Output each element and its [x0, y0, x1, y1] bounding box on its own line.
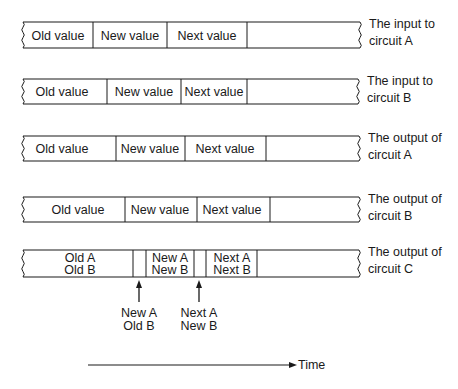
transition-marker: Next ANew B [181, 280, 218, 333]
cell-label: New value [115, 85, 173, 99]
break-mark-left-icon [22, 136, 25, 161]
cell-label: New value [101, 29, 159, 43]
time-arrow-head-icon [289, 362, 297, 368]
row-caption: The output of [368, 192, 442, 206]
row-caption: circuit B [368, 209, 412, 223]
break-mark-left-icon [22, 22, 25, 48]
break-mark-right-icon [358, 250, 361, 277]
break-mark-left-icon [22, 79, 25, 104]
cell-label: Old value [52, 203, 105, 217]
break-mark-right-icon [359, 22, 362, 48]
break-mark-right-icon [357, 79, 360, 104]
transition-label: New B [181, 319, 218, 333]
break-mark-right-icon [358, 136, 361, 161]
row-caption: The input to [367, 74, 433, 88]
signal-row-input-a: Old valueNew valueNext valueThe input to… [22, 17, 435, 48]
signal-row-input-b: Old valueNew valueNext valueThe input to… [22, 74, 433, 105]
up-arrow-icon [136, 280, 142, 288]
signal-row-output-a: Old valueNew valueNext valueThe output o… [22, 131, 442, 162]
cell-label: Next value [195, 142, 254, 156]
cell-label: Old value [36, 85, 89, 99]
time-label: Time [298, 358, 325, 372]
row-caption: circuit B [367, 91, 411, 105]
row-caption: The output of [368, 245, 442, 259]
timing-diagram: Old valueNew valueNext valueThe input to… [0, 0, 458, 389]
signal-row-output-b: Old valueNew valueNext valueThe output o… [22, 192, 442, 223]
row-caption: circuit A [369, 34, 413, 48]
transition-label: New A [121, 306, 158, 320]
cell-label: New value [121, 142, 179, 156]
signal-row-output-c: Old AOld BNew ANew BNext ANext BThe outp… [22, 245, 442, 277]
time-axis: Time [88, 358, 325, 372]
row-caption: circuit A [368, 148, 412, 162]
transition-label: Next A [181, 306, 218, 320]
transition-marker: New AOld B [121, 280, 158, 333]
cell-label-2: Next B [213, 263, 251, 277]
cell-label: Old value [32, 29, 85, 43]
cell-label: Next value [177, 29, 236, 43]
cell-label: Next value [202, 203, 261, 217]
transition-label: Old B [123, 319, 154, 333]
cell-label-2: Old B [64, 263, 95, 277]
row-caption: circuit C [368, 262, 413, 276]
cell-label: New value [131, 203, 189, 217]
up-arrow-icon [196, 280, 202, 288]
cell-label-2: New B [152, 263, 189, 277]
break-mark-right-icon [358, 197, 361, 222]
cell-label: Old value [36, 142, 89, 156]
row-caption: The input to [369, 17, 435, 31]
break-mark-left-icon [22, 197, 25, 222]
row-caption: The output of [368, 131, 442, 145]
break-mark-left-icon [22, 250, 25, 277]
cell-label: Next value [184, 85, 243, 99]
